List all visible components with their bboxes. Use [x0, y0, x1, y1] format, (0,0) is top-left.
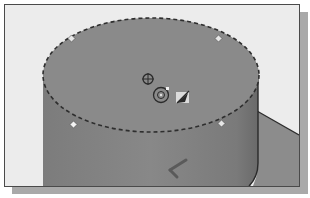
cad-viewport[interactable] — [4, 4, 300, 187]
drag-arrow-handle-icon[interactable] — [176, 91, 189, 103]
scene — [5, 5, 299, 186]
